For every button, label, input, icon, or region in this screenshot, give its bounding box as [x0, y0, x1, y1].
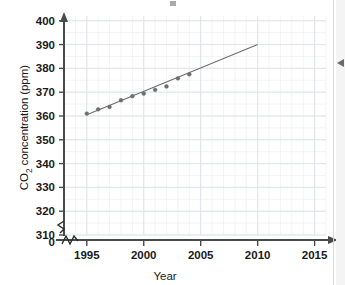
y-tick-label: 320	[36, 205, 55, 217]
data-point	[85, 112, 89, 116]
y-axis-title-rest: concentration (ppm)	[18, 65, 30, 168]
y-tick-label: 370	[36, 86, 55, 98]
page-edge-shadow	[336, 0, 345, 285]
y-tick-label: 380	[36, 62, 55, 74]
chart-canvas: 3103203303403503603703803904000 19952000…	[0, 0, 345, 285]
y-tick-label: 400	[36, 15, 55, 27]
x-tick-label: 2010	[245, 249, 271, 261]
data-point	[153, 88, 157, 92]
y-axis-tick-labels: 3103203303403503603703803904000	[36, 15, 55, 248]
x-axis-title: Year	[154, 270, 177, 282]
x-axis-title-wrap: Year	[0, 266, 330, 284]
scan-artifact-smudge	[170, 1, 176, 6]
plot-background	[64, 16, 326, 235]
x-tick-label: 2015	[302, 249, 328, 261]
y-tick-label: 390	[36, 39, 55, 51]
data-point	[187, 72, 191, 76]
data-point	[142, 92, 146, 96]
y-tick-label: 360	[36, 110, 55, 122]
data-point	[176, 76, 180, 80]
x-tick-label: 2000	[131, 249, 157, 261]
y-axis-title-wrap: CO2 concentration (ppm)	[14, 38, 33, 218]
data-point	[96, 107, 100, 111]
y-tick-label-zero: 0	[49, 236, 55, 248]
x-axis-tick-labels: 19952000200520102015	[74, 249, 328, 261]
margin-pointer-icon	[337, 59, 344, 67]
y-axis-title-co: CO	[18, 173, 30, 190]
data-point	[119, 98, 123, 102]
page-edge-line	[333, 0, 334, 285]
y-axis-title-subscript: 2	[25, 169, 34, 174]
co2-concentration-chart-figure: 3103203303403503603703803904000 19952000…	[0, 0, 345, 285]
y-tick-label: 330	[36, 181, 55, 193]
x-tick-label: 1995	[74, 249, 100, 261]
data-point	[130, 94, 134, 98]
y-axis-title: CO2 concentration (ppm)	[18, 65, 30, 190]
data-point	[108, 105, 112, 109]
x-tick-label: 2005	[188, 249, 214, 261]
data-point	[165, 85, 169, 89]
y-tick-label: 350	[36, 134, 55, 146]
y-tick-label: 340	[36, 158, 55, 170]
